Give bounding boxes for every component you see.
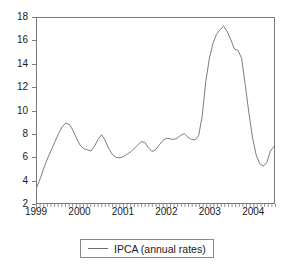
y-tick-label: 16 (17, 35, 28, 45)
legend-label-ipca: IPCA (annual rates) (114, 243, 206, 255)
y-tick-label: 4 (22, 176, 28, 186)
y-axis: 18161412108642 (0, 0, 36, 221)
x-tick-label: 1999 (25, 206, 47, 218)
x-tick-label: 2003 (199, 206, 221, 218)
x-tick-label: 2004 (242, 206, 264, 218)
x-tick-label: 2001 (112, 206, 134, 218)
y-tick-label: 12 (17, 82, 28, 92)
y-tick-label: 18 (17, 12, 28, 22)
x-tick-label: 2000 (68, 206, 90, 218)
series-line-ipca (37, 26, 274, 187)
data-line-chart (37, 18, 274, 203)
plot-area (36, 17, 275, 204)
x-tick-label: 2002 (155, 206, 177, 218)
y-tick-label: 6 (22, 152, 28, 162)
chart-legend: IPCA (annual rates) (80, 239, 214, 258)
y-tick-label: 8 (22, 129, 28, 139)
legend-line-swatch-icon (88, 248, 108, 249)
y-tick-label: 14 (17, 59, 28, 69)
y-tick-label: 10 (17, 106, 28, 116)
x-axis: 199920002001200220032004 (0, 206, 293, 224)
chart-figure: 18161412108642 199920002001200220032004 … (0, 0, 293, 266)
